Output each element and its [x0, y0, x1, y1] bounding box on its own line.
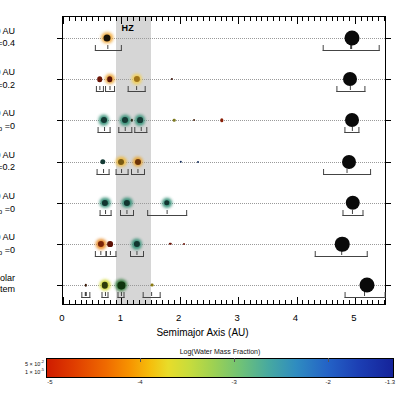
eccentricity-bar-center-tick [351, 127, 352, 131]
row-axis-tick [385, 244, 391, 245]
row-axis-tick [57, 79, 63, 80]
row-label-line: ab =40 AU [0, 108, 15, 121]
planet-marker [97, 76, 103, 82]
x-axis-tick [291, 300, 292, 304]
row-guide-line [63, 162, 385, 163]
x-axis-tick [279, 17, 280, 21]
x-axis-tick [297, 297, 298, 304]
row-label-ab30-eb0: ab =30 AUeb =0 [0, 191, 15, 217]
colorbar-size-legend-label: 5 × 10-2 [25, 359, 44, 367]
x-axis-tick [174, 300, 175, 304]
x-axis-tick [104, 300, 105, 304]
x-axis-tick [110, 17, 111, 21]
x-axis-tick [332, 300, 333, 304]
eccentricity-range-bar [105, 251, 116, 257]
eccentricity-range-bar [131, 169, 145, 175]
eccentricity-range-bar [97, 169, 110, 175]
row-label-ab20-eb0: ab =20 AUeb =0 [0, 232, 15, 258]
colorbar-tick-label: -5 [47, 379, 52, 385]
row-label-line: eb =0 [0, 204, 15, 217]
eccentricity-range-bar [99, 210, 112, 216]
row-guide-line [63, 120, 385, 121]
planet-marker [150, 284, 153, 287]
row-label-ab40-eb0: ab =40 AUeb =0 [0, 108, 15, 134]
x-axis-tick [279, 300, 280, 304]
x-axis-tick [186, 300, 187, 304]
row-label-ab40-eb02: ab =40 AUeb =0.2 [0, 67, 15, 93]
x-axis-tick [180, 17, 181, 24]
x-axis-tick [203, 300, 204, 304]
x-axis-tick [139, 300, 140, 304]
row-axis-tick [57, 162, 63, 163]
row-label-line: ab =30 AU [0, 150, 15, 163]
planet-marker [193, 119, 195, 121]
planet-marker [344, 30, 359, 45]
x-axis-tick [337, 300, 338, 304]
x-axis-tick [75, 300, 76, 304]
row-label-line: Solar [0, 273, 15, 284]
colorbar-tick [328, 358, 329, 362]
x-axis-tick [367, 17, 368, 21]
x-axis-tick [215, 300, 216, 304]
x-axis-tick [232, 17, 233, 21]
x-axis-tick [215, 17, 216, 21]
colorbar-tick-label: -4 [137, 379, 142, 385]
eccentricity-bar-center-tick [125, 127, 126, 131]
planet-marker [137, 117, 143, 123]
x-axis-tick [314, 17, 315, 21]
planet-marker [343, 72, 357, 86]
x-axis-tick [349, 300, 350, 304]
eccentricity-bar-center-tick [136, 251, 137, 255]
planet-marker [135, 159, 141, 165]
eccentricity-range-bar [118, 127, 131, 133]
eccentricity-bar-center-tick [85, 292, 86, 296]
x-axis-tick [180, 297, 181, 304]
x-axis-tick [104, 17, 105, 21]
x-axis-tick [151, 17, 152, 21]
planet-marker [342, 155, 356, 169]
colorbar-size-legend-label: 1 × 10-5 [25, 367, 44, 375]
x-axis-tick [320, 300, 321, 304]
row-label-ab30-eb02: ab =30 AUeb =0.2 [0, 150, 15, 176]
row-label-line: ab =20 AU [0, 232, 15, 245]
planet-marker [345, 113, 359, 127]
x-axis-tick [238, 17, 239, 24]
eccentricity-range-bar [323, 169, 371, 175]
eccentricity-bar-center-tick [140, 127, 141, 131]
x-axis-tick [86, 17, 87, 21]
eccentricity-bar-center-tick [110, 251, 111, 255]
planet-marker [345, 196, 360, 211]
eccentricity-range-bar [98, 127, 111, 133]
x-axis-tick [261, 17, 262, 21]
eccentricity-range-bar [102, 292, 109, 298]
x-axis-tick [367, 300, 368, 304]
x-axis-tick-label: 1 [118, 312, 123, 323]
x-axis-tick-label: 3 [234, 312, 239, 323]
x-axis-tick [92, 300, 93, 304]
planet-marker [101, 117, 107, 123]
x-axis-tick [320, 17, 321, 21]
x-axis-tick-label: 0 [59, 312, 64, 323]
eccentricity-bar-center-tick [352, 210, 353, 214]
habitable-zone-label: HZ [122, 23, 135, 33]
x-axis-tick [267, 300, 268, 304]
row-label-line: ab =30 AU [0, 191, 15, 204]
x-axis-tick [203, 17, 204, 21]
x-axis-tick [256, 300, 257, 304]
eccentricity-bar-center-tick [99, 86, 100, 90]
eccentricity-range-bar [134, 127, 147, 133]
row-axis-tick [385, 203, 391, 204]
eccentricity-range-bar [105, 86, 115, 92]
row-axis-tick [385, 79, 391, 80]
x-axis-tick [63, 297, 64, 304]
x-axis-tick [145, 300, 146, 304]
planet-formation-figure: HZ Semimajor Axis (AU) Log(Water Mass Fr… [0, 0, 405, 398]
eccentricity-range-bar [344, 292, 385, 298]
x-axis-tick [326, 300, 327, 304]
eccentricity-bar-center-tick [104, 292, 105, 296]
x-axis-tick [361, 17, 362, 21]
row-axis-tick [57, 244, 63, 245]
x-axis-tick [326, 17, 327, 21]
eccentricity-bar-center-tick [341, 251, 342, 255]
x-axis-tick [337, 17, 338, 21]
